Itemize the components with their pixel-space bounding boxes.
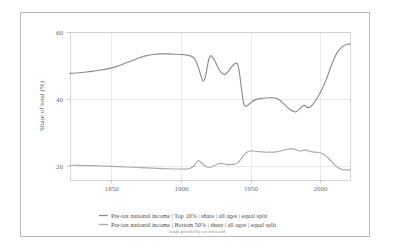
x-tick-label-1850: 1850 [105, 185, 120, 193]
y-tick-label-20: 20 [56, 163, 64, 171]
chart-credit: Graph provided by wir.wid.world [169, 229, 226, 234]
chart-legend: Pre-tax national income | Top 10% | shar… [99, 212, 277, 228]
x-tick-label-1900: 1900 [174, 185, 189, 193]
y-tick-label-60: 60 [56, 29, 64, 37]
x-tick-label-2000: 2000 [314, 185, 329, 193]
x-tick-label-1950: 1950 [244, 185, 259, 193]
legend-label-top10: Pre-tax national income | Top 10% | shar… [111, 212, 267, 219]
chart-screenshot: 60 40 20 1850 1900 1950 2000 Share of to… [0, 0, 395, 252]
y-tick-label-40: 40 [56, 96, 64, 104]
x-gridlines [112, 32, 321, 180]
y-axis-title: Share of total (%) [38, 80, 46, 131]
line-chart: 60 40 20 1850 1900 1950 2000 Share of to… [0, 0, 395, 252]
y-tickmarks [67, 32, 70, 166]
x-tickmarks [112, 180, 321, 183]
chart-canvas: 60 40 20 1850 1900 1950 2000 Share of to… [0, 0, 395, 252]
legend-label-bottom50: Pre-tax national income | Bottom 50% | s… [111, 221, 277, 228]
